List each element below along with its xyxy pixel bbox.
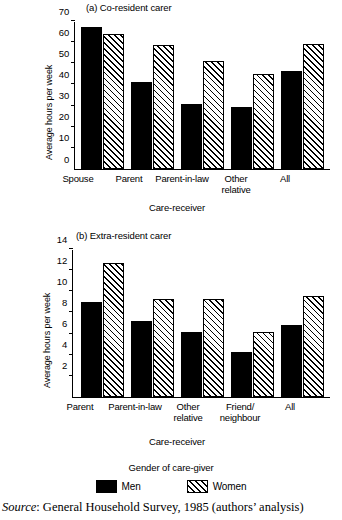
chart-b-bar-men[interactable] bbox=[181, 332, 202, 398]
chart-b-group-parent-in-law bbox=[129, 250, 177, 397]
chart-b-ytick-label: 8 bbox=[62, 298, 67, 308]
chart-b-group-parent bbox=[79, 250, 127, 397]
chart-a-bar-women[interactable] bbox=[103, 34, 124, 169]
chart-b-bar-women[interactable] bbox=[303, 296, 324, 398]
chart-b-bars bbox=[73, 250, 330, 397]
chart-a-xtick-all: All bbox=[262, 174, 308, 185]
chart-a-bar-men[interactable] bbox=[81, 27, 102, 169]
chart-a-ytick-label: 20 bbox=[59, 112, 69, 122]
chart-a-x-axis-label: Care-receiver bbox=[26, 202, 328, 213]
chart-b-xtick-parent: Parent bbox=[54, 402, 106, 413]
chart-a-group-other-relative bbox=[229, 22, 277, 169]
chart-a-plot-area: 70 60 50 40 30 20 10 0 bbox=[74, 22, 330, 170]
chart-legend: Gender of care-giver Men Women bbox=[0, 462, 342, 493]
chart-b-x-axis-label: Care-receiver bbox=[26, 436, 328, 447]
chart-a-bar-women[interactable] bbox=[253, 74, 274, 169]
chart-a-bars bbox=[75, 22, 330, 169]
chart-a-ytick-label: 70 bbox=[59, 7, 69, 17]
chart-b-title: (b) Extra-resident carer bbox=[76, 230, 171, 241]
chart-a-y-axis-label: Average hours per week bbox=[44, 65, 54, 160]
chart-a-xtick-parent: Parent bbox=[104, 174, 154, 185]
chart-a-xtick-other-relative: Otherrelative bbox=[212, 174, 260, 195]
chart-b-xtick-friend-neighbour: Friend/neighbour bbox=[210, 402, 270, 423]
chart-a-group-all bbox=[279, 22, 327, 169]
chart-panel-co-resident-carer: (a) Co-resident carer Average hours per … bbox=[0, 0, 342, 225]
legend-title: Gender of care-giver bbox=[0, 462, 342, 473]
legend-swatch-men-icon bbox=[96, 480, 117, 493]
chart-b-ytick-label: 14 bbox=[57, 235, 67, 245]
legend-item-women[interactable]: Women bbox=[187, 480, 247, 493]
chart-a-bar-men[interactable] bbox=[231, 107, 252, 169]
chart-b-ytick bbox=[69, 248, 73, 249]
chart-a-xtick-parent-in-law: Parent-in-law bbox=[150, 174, 214, 185]
source-label: Source bbox=[2, 500, 36, 514]
legend-swatch-women-icon bbox=[187, 480, 208, 493]
chart-b-ytick-label: 6 bbox=[62, 319, 67, 329]
source-text: : General Household Survey, 1985 (author… bbox=[36, 500, 303, 514]
chart-b-plot-area: 14 12 10 8 6 4 2 bbox=[72, 250, 330, 398]
chart-b-group-other-relative bbox=[179, 250, 227, 397]
chart-b-bar-men[interactable] bbox=[281, 325, 302, 397]
chart-b-xtick-other-relative: Otherrelative bbox=[164, 402, 212, 423]
chart-a-group-spouse bbox=[79, 22, 127, 169]
chart-a-xtick-spouse: Spouse bbox=[52, 174, 104, 185]
chart-b-y-axis-label: Average hours per week bbox=[42, 293, 52, 388]
chart-b-bar-women[interactable] bbox=[153, 299, 174, 397]
chart-a-bar-men[interactable] bbox=[281, 71, 302, 169]
chart-b-group-all bbox=[279, 250, 327, 397]
chart-b-bar-men[interactable] bbox=[131, 321, 152, 397]
legend-label-men: Men bbox=[122, 481, 141, 492]
chart-a-ytick-label: 40 bbox=[59, 70, 69, 80]
chart-b-bar-men[interactable] bbox=[81, 302, 102, 397]
legend-label-women: Women bbox=[213, 481, 247, 492]
chart-panel-extra-resident-carer: (b) Extra-resident carer Average hours p… bbox=[0, 228, 342, 448]
chart-b-ytick-label: 4 bbox=[62, 340, 67, 350]
chart-b-bar-women[interactable] bbox=[103, 263, 124, 397]
chart-a-ytick-label: 50 bbox=[59, 49, 69, 59]
chart-a-ytick-label: 30 bbox=[59, 91, 69, 101]
chart-b-group-friend-neighbour bbox=[229, 250, 277, 397]
source-line: Source: General Household Survey, 1985 (… bbox=[2, 500, 342, 515]
chart-b-xtick-all: All bbox=[268, 402, 312, 413]
chart-a-ytick-label: 60 bbox=[59, 28, 69, 38]
chart-a-group-parent-in-law bbox=[179, 22, 227, 169]
chart-b-ytick-label: 12 bbox=[57, 256, 67, 266]
chart-a-bar-women[interactable] bbox=[203, 61, 224, 169]
chart-a-ytick-label: 10 bbox=[59, 134, 69, 144]
chart-a-bar-men[interactable] bbox=[131, 82, 152, 169]
chart-b-bar-women[interactable] bbox=[253, 332, 274, 398]
chart-b-ytick-label: 2 bbox=[62, 362, 67, 372]
chart-a-title: (a) Co-resident carer bbox=[86, 2, 172, 13]
chart-b-ytick-label: 10 bbox=[57, 277, 67, 287]
chart-b-bar-men[interactable] bbox=[231, 352, 252, 398]
chart-a-ytick bbox=[71, 20, 75, 21]
chart-a-ytick-label: 0 bbox=[64, 155, 69, 165]
chart-a-bar-women[interactable] bbox=[153, 45, 174, 169]
legend-item-men[interactable]: Men bbox=[96, 480, 141, 493]
chart-b-bar-women[interactable] bbox=[203, 299, 224, 397]
chart-a-group-parent bbox=[129, 22, 177, 169]
chart-a-bar-women[interactable] bbox=[303, 44, 324, 169]
chart-a-bar-men[interactable] bbox=[181, 104, 202, 170]
chart-b-xtick-parent-in-law: Parent-in-law bbox=[102, 402, 168, 413]
